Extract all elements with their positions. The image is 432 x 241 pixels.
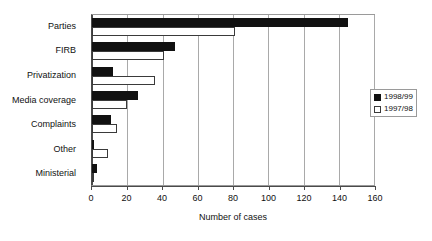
legend: 1998/991997/98	[370, 89, 417, 117]
x-axis-tick	[375, 186, 376, 190]
category-label: Other	[0, 137, 82, 162]
category-label: Complaints	[0, 112, 82, 137]
plot-area	[91, 14, 375, 186]
bar-1	[92, 76, 155, 85]
bar-group	[92, 64, 374, 88]
empty-square-icon	[374, 106, 381, 113]
x-axis-tick	[269, 186, 270, 190]
bar-1	[92, 173, 94, 182]
bar-1	[92, 27, 235, 36]
x-axis-tick-label: 80	[228, 192, 238, 204]
x-axis-tick-label: 160	[367, 192, 382, 204]
category-label: FIRB	[0, 39, 82, 64]
x-axis-title: Number of cases	[91, 212, 375, 222]
x-axis-tick-label: 100	[261, 192, 276, 204]
bar-0	[92, 140, 94, 149]
bar-group	[92, 136, 374, 160]
bar-series-container	[92, 15, 374, 185]
category-label: Parties	[0, 14, 82, 39]
bar-group	[92, 15, 374, 39]
x-axis-tick	[304, 186, 305, 190]
legend-item: 1998/99	[374, 92, 413, 102]
bar-group	[92, 88, 374, 112]
bar-0	[92, 18, 348, 27]
bar-1	[92, 149, 108, 158]
bar-group	[92, 112, 374, 136]
bar-1	[92, 124, 117, 133]
x-axis-tick	[198, 186, 199, 190]
legend-item: 1997/98	[374, 104, 413, 114]
x-axis-tick-label: 0	[88, 192, 93, 204]
filled-square-icon	[374, 94, 381, 101]
x-axis-tick	[127, 186, 128, 190]
bar-group	[92, 39, 374, 63]
x-axis-tick-label: 120	[296, 192, 311, 204]
x-axis-tick	[233, 186, 234, 190]
x-axis-tick-label: 40	[157, 192, 167, 204]
bar-0	[92, 91, 138, 100]
x-axis-tick-label: 60	[192, 192, 202, 204]
x-axis-tick-label: 140	[332, 192, 347, 204]
legend-label: 1998/99	[384, 92, 413, 102]
bar-chart: PartiesFIRBPrivatizationMedia coverageCo…	[0, 0, 432, 241]
x-axis-tick	[91, 186, 92, 190]
legend-label: 1997/98	[384, 104, 413, 114]
bar-0	[92, 115, 111, 124]
category-axis-labels: PartiesFIRBPrivatizationMedia coverageCo…	[0, 14, 82, 186]
x-axis-tick-labels: 020406080100120140160	[91, 192, 375, 204]
x-axis-tick	[340, 186, 341, 190]
x-axis-tick-label: 20	[121, 192, 131, 204]
x-axis-line	[91, 186, 375, 187]
category-label: Ministerial	[0, 161, 82, 186]
bar-0	[92, 67, 113, 76]
bar-1	[92, 51, 164, 60]
category-label: Media coverage	[0, 88, 82, 113]
x-axis-tick	[162, 186, 163, 190]
bar-0	[92, 42, 175, 51]
bar-group	[92, 161, 374, 185]
category-label: Privatization	[0, 63, 82, 88]
bar-0	[92, 164, 97, 173]
bar-1	[92, 100, 127, 109]
